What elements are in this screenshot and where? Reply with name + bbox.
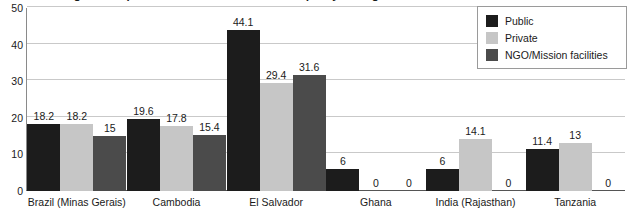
bar-slot[interactable]: 44.1 <box>227 8 260 191</box>
bar-slot[interactable]: 29.4 <box>260 8 293 191</box>
x-tick-label: India (Rajasthan) <box>436 196 516 208</box>
bar[interactable] <box>93 136 126 191</box>
bar-value-label: 0 <box>583 177 634 189</box>
x-tick-label: Ghana <box>360 196 392 208</box>
bar-slot[interactable]: 17.8 <box>160 8 193 191</box>
x-tick-label: Brazil (Minas Gerais) <box>28 196 126 208</box>
bar[interactable] <box>227 30 260 191</box>
bar-slot[interactable]: 19.6 <box>127 8 160 191</box>
bar-slot[interactable]: 18.2 <box>27 8 60 191</box>
bar-slot[interactable]: 15 <box>93 8 126 191</box>
legend-item-ngo-mission-facilities[interactable]: NGO/Mission facilities <box>486 46 619 63</box>
bar[interactable] <box>426 169 459 191</box>
y-tick-label: 40 <box>0 39 23 51</box>
legend: PublicPrivateNGO/Mission facilities <box>477 6 627 69</box>
bar-slot[interactable]: 15.4 <box>193 8 226 191</box>
x-tick-label: Cambodia <box>153 196 201 208</box>
bar-slot[interactable]: 6 <box>326 8 359 191</box>
x-tick-label: Tanzania <box>554 196 596 208</box>
legend-swatch-icon <box>486 15 498 27</box>
x-axis-labels: Brazil (Minas Gerais)CambodiaEl Salvador… <box>27 196 625 216</box>
bar[interactable] <box>27 124 60 191</box>
bar-slot[interactable]: 0 <box>359 8 392 191</box>
legend-swatch-icon <box>486 32 498 44</box>
bar-slot[interactable]: 6 <box>426 8 459 191</box>
legend-item-public[interactable]: Public <box>486 12 619 29</box>
legend-label: Private <box>505 32 538 44</box>
bar-group: 19.617.815.4 <box>127 8 227 191</box>
y-tick-label: 50 <box>0 2 23 14</box>
bar[interactable] <box>526 149 559 191</box>
bar-slot[interactable]: 18.2 <box>60 8 93 191</box>
legend-item-private[interactable]: Private <box>486 29 619 46</box>
legend-label: Public <box>505 15 534 27</box>
bar[interactable] <box>293 75 326 191</box>
bar[interactable] <box>127 119 160 191</box>
y-tick-label: 10 <box>0 148 23 160</box>
x-tick-label: El Salvador <box>249 196 303 208</box>
bar-group: 18.218.215 <box>27 8 127 191</box>
bar[interactable] <box>193 135 226 191</box>
y-tick-label: 0 <box>0 185 23 197</box>
legend-swatch-icon <box>486 49 498 61</box>
bar-group: 44.129.431.6 <box>226 8 326 191</box>
y-tick-label: 30 <box>0 75 23 87</box>
bar-group: 600 <box>326 8 426 191</box>
bar[interactable] <box>160 126 193 191</box>
bar[interactable] <box>260 83 293 191</box>
legend-label: NGO/Mission facilities <box>505 49 608 61</box>
bar[interactable] <box>60 124 93 191</box>
